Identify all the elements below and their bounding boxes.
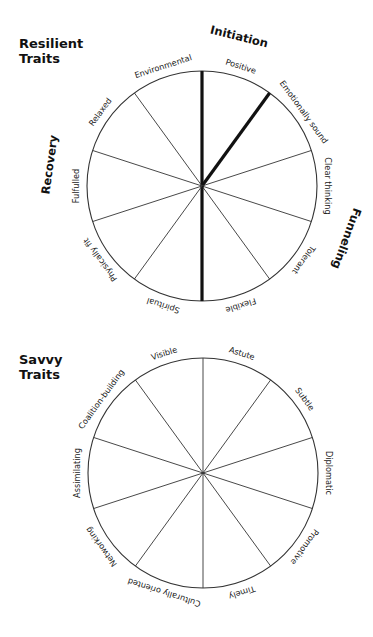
spoke bbox=[203, 473, 271, 566]
segment-label: Subtle bbox=[293, 385, 316, 412]
spoke bbox=[93, 150, 202, 186]
group-label: Recovery bbox=[38, 133, 60, 195]
group-label: Funneling bbox=[329, 206, 364, 271]
resilient-traits-wheel: PositiveEmotionally soundClear thinkingT… bbox=[38, 23, 364, 316]
segment-label: Assimilating bbox=[72, 448, 82, 498]
segment-label: Emotionally sound bbox=[278, 78, 331, 145]
segment-label: Positive bbox=[224, 57, 257, 76]
spoke bbox=[134, 93, 202, 186]
segment-label: Tolerant bbox=[290, 243, 318, 277]
spoke bbox=[93, 186, 202, 222]
segment-label: Coalition-building bbox=[76, 367, 126, 431]
spoke bbox=[202, 186, 270, 279]
segment-label: Flexible bbox=[224, 296, 257, 315]
spoke bbox=[203, 380, 271, 473]
segment-label: Environmental bbox=[133, 52, 193, 80]
segment-label: Promotive bbox=[289, 527, 321, 566]
segment-label: Diplomatic bbox=[324, 451, 334, 495]
spoke bbox=[134, 186, 202, 279]
spoke bbox=[202, 150, 311, 186]
trait-wheels-diagram: PositiveEmotionally soundClear thinkingT… bbox=[0, 0, 373, 637]
spoke bbox=[202, 186, 311, 222]
highlighted-spoke bbox=[202, 93, 270, 186]
segment-label: Timely bbox=[227, 584, 257, 602]
segment-label: Astute bbox=[228, 344, 256, 362]
segment-label: Clear thinking bbox=[323, 157, 333, 214]
segment-label: Visible bbox=[150, 344, 179, 362]
spoke bbox=[203, 437, 312, 473]
spoke bbox=[203, 473, 312, 509]
group-label: Initiation bbox=[209, 23, 270, 51]
spoke bbox=[135, 473, 203, 566]
segment-label: Spiritual bbox=[145, 296, 180, 316]
segment-label: Relaxed bbox=[86, 96, 113, 128]
spoke bbox=[135, 380, 203, 473]
segment-label: Networking bbox=[83, 525, 119, 569]
savvy-traits-wheel: AstuteSubtleDiplomaticPromotiveTimelyCul… bbox=[72, 344, 334, 609]
spoke bbox=[94, 437, 203, 473]
segment-label: Fulfulled bbox=[71, 169, 81, 204]
spoke bbox=[94, 473, 203, 509]
